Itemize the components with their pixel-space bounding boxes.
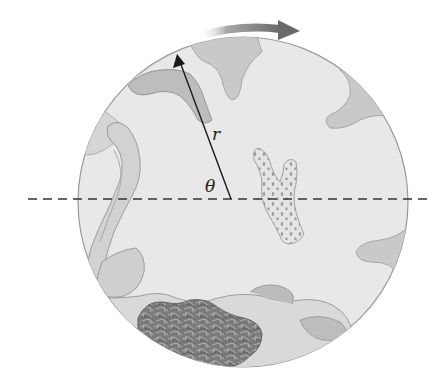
radius-label: r (212, 124, 221, 144)
rotating-drum-diagram: r θ (0, 0, 440, 373)
angle-label: θ (205, 176, 215, 196)
